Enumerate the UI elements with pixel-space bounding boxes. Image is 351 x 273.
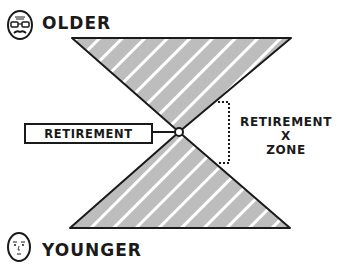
retirement-label-box: RETIREMENT bbox=[24, 123, 153, 144]
retirement-zone-label: RETIREMENT X ZONE bbox=[236, 115, 336, 157]
younger-label: YOUNGER bbox=[42, 240, 142, 260]
elderly-face-with-glasses-icon bbox=[8, 11, 32, 39]
young-face-icon bbox=[8, 233, 30, 261]
zone-line-1: RETIREMENT bbox=[236, 115, 336, 129]
zone-line-3: ZONE bbox=[236, 143, 336, 157]
retirement-pivot-point bbox=[175, 128, 183, 136]
zone-line-2: X bbox=[236, 129, 336, 143]
older-label: OLDER bbox=[42, 13, 111, 33]
retirement-zone-bracket bbox=[218, 102, 229, 163]
retirement-label: RETIREMENT bbox=[44, 127, 132, 141]
